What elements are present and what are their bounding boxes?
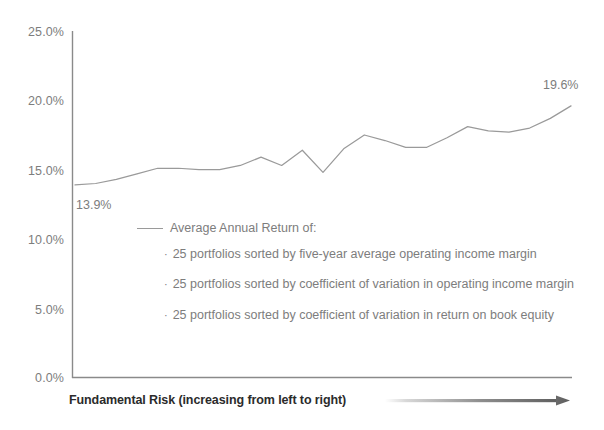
bullet-icon: ·: [164, 279, 168, 290]
chart-container: 25.0% 20.0% 15.0% 10.0% 5.0% 0.0% 13.9% …: [0, 0, 604, 430]
bullet-icon: ·: [164, 310, 168, 321]
legend-line-swatch-icon: [137, 228, 163, 229]
chart-canvas: [0, 0, 604, 430]
legend-header-label: Average Annual Return of:: [170, 222, 316, 235]
data-line-average-annual-return: [75, 106, 571, 185]
legend-item-label: 25 portfolios sorted by five-year averag…: [173, 248, 537, 261]
y-tick-label-10: 10.0%: [6, 234, 64, 247]
end-value-label: 19.6%: [543, 79, 578, 92]
legend-item: · 25 portfolios sorted by coefficient of…: [164, 309, 587, 322]
bullet-icon: ·: [164, 249, 168, 260]
legend-item-label: 25 portfolios sorted by coefficient of v…: [173, 309, 554, 322]
legend-item-list: · 25 portfolios sorted by five-year aver…: [137, 248, 587, 322]
legend-header-row: Average Annual Return of:: [137, 222, 587, 235]
y-tick-label-25: 25.0%: [6, 26, 64, 39]
start-value-label: 13.9%: [76, 199, 111, 212]
chart-legend: Average Annual Return of: · 25 portfolio…: [137, 222, 587, 339]
x-axis-title: Fundamental Risk (increasing from left t…: [69, 393, 346, 407]
y-tick-label-20: 20.0%: [6, 95, 64, 108]
increasing-risk-arrow: [385, 396, 570, 406]
y-tick-label-15: 15.0%: [6, 165, 64, 178]
legend-item: · 25 portfolios sorted by five-year aver…: [164, 248, 587, 261]
legend-item: · 25 portfolios sorted by coefficient of…: [164, 278, 587, 291]
y-tick-label-5: 5.0%: [6, 303, 64, 316]
y-tick-label-0: 0.0%: [6, 372, 64, 385]
legend-item-label: 25 portfolios sorted by coefficient of v…: [173, 278, 574, 291]
